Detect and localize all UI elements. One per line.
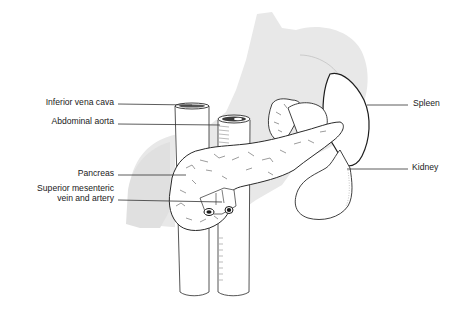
label-abdominal-aorta: Abdominal aorta	[36, 116, 114, 126]
label-kidney: Kidney	[412, 162, 438, 172]
diagram-illustration	[0, 0, 467, 312]
label-superior-mesenteric-line1: Superior mesenteric	[14, 183, 114, 193]
anatomy-diagram: Inferior vena cava Abdominal aorta Pancr…	[0, 0, 467, 312]
label-pancreas: Pancreas	[36, 168, 114, 178]
label-spleen: Spleen	[413, 98, 440, 108]
label-superior-mesenteric-line2: vein and artery	[14, 193, 114, 203]
label-inferior-vena-cava: Inferior vena cava	[36, 97, 114, 107]
